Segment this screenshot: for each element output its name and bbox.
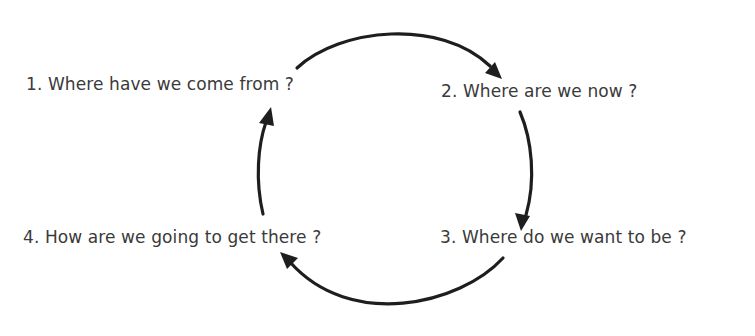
arrow-curved-right-icon <box>297 34 502 79</box>
stage-1-label: 1. Where have we come from ? <box>26 76 294 93</box>
arrow-curved-left-icon <box>280 252 503 304</box>
cycle-arrows <box>0 0 755 336</box>
arrow-curved-down-icon <box>515 112 532 231</box>
stage-3-label: 3. Where do we want to be ? <box>440 229 687 246</box>
stage-2-label: 2. Where are we now ? <box>441 83 637 100</box>
cycle-diagram: 1. Where have we come from ? 2. Where ar… <box>0 0 755 336</box>
stage-4-label: 4. How are we going to get there ? <box>23 229 321 246</box>
arrow-curved-up-icon <box>258 107 274 214</box>
